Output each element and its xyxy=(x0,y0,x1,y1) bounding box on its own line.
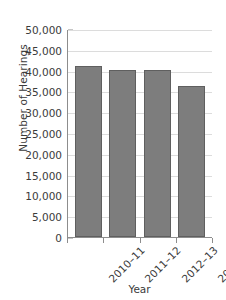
y-axis-tick-label: 15,000 xyxy=(6,170,62,181)
x-axis-tick-label: 2010–11 xyxy=(106,244,147,285)
x-axis-tick-mark xyxy=(176,238,177,243)
x-axis-tick-mark xyxy=(140,238,141,243)
y-axis-tick-label: 25,000 xyxy=(6,129,62,140)
bar-2012-13 xyxy=(144,70,171,237)
x-axis-tick-mark xyxy=(67,238,68,243)
bar-chart: Number of Hearings 50,00045,00040,00035,… xyxy=(0,0,226,300)
y-axis-tick-label: 30,000 xyxy=(6,108,62,119)
y-axis-tick-label: 10,000 xyxy=(6,191,62,202)
y-axis-tick-label: 35,000 xyxy=(6,87,62,98)
x-axis-tick-label: 2012–13 xyxy=(179,244,220,285)
bar-2013-14 xyxy=(178,86,205,237)
y-axis-tick-label: 20,000 xyxy=(6,150,62,161)
y-axis-tick-label: 45,000 xyxy=(6,46,62,57)
y-axis-tick-label: 5,000 xyxy=(6,212,62,223)
plot-area xyxy=(67,30,212,238)
y-axis-tick-label: 40,000 xyxy=(6,66,62,77)
y-axis-tick-label: 50,000 xyxy=(6,25,62,36)
x-axis-title: Year xyxy=(67,283,212,295)
x-axis-tick-label: 2011–12 xyxy=(143,244,184,285)
x-axis-tick-mark xyxy=(212,238,213,243)
bar-2011-12 xyxy=(109,70,136,237)
bar-2010-11 xyxy=(75,66,102,237)
y-axis-tick-label: 0 xyxy=(6,233,62,244)
y-axis-tick-labels: 50,00045,00040,00035,00030,00025,00020,0… xyxy=(6,30,62,238)
x-axis-tick-labels: 2010–112011–122012–132013–14 xyxy=(67,244,212,278)
x-axis-tick-mark xyxy=(103,238,104,243)
bars-group xyxy=(68,30,212,237)
